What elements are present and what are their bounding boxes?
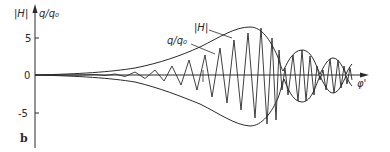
y-tick-label-0: 0	[24, 70, 30, 81]
y-axis-label-left: |H|	[14, 8, 28, 20]
label-envelope: |H|	[194, 22, 208, 34]
label-oscillation: q/q₀	[167, 35, 187, 46]
oscillation-curve	[35, 28, 352, 124]
y-tick-label-5: 5	[25, 33, 31, 44]
y-axis-label-right: q/q₀	[39, 8, 59, 19]
y-axis-arrow-icon	[33, 4, 38, 13]
x-axis-arrow-icon	[360, 73, 369, 78]
envelope-upper-curve	[35, 27, 352, 75]
x-axis-label: φ'	[357, 78, 366, 89]
panel-label: b	[20, 132, 28, 145]
figure: |H| q/q₀ 5 0 -5 b φ' |H| q/q₀	[0, 0, 390, 152]
y-tick-label-neg5: -5	[18, 108, 28, 119]
y-axis	[33, 4, 40, 148]
